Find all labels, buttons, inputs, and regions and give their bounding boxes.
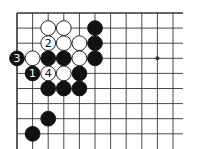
black-stone xyxy=(88,51,103,66)
white-stone: 2 xyxy=(41,36,56,51)
white-stone xyxy=(56,21,71,36)
white-stone xyxy=(56,36,71,51)
white-stone xyxy=(72,36,87,51)
black-stone xyxy=(41,81,56,96)
black-stone: 1 xyxy=(25,66,40,81)
white-stone xyxy=(72,51,87,66)
star-points xyxy=(155,56,159,60)
move-number-label: 2 xyxy=(45,37,52,50)
black-stone: 3 xyxy=(10,51,25,66)
black-stone xyxy=(41,111,56,126)
white-stone xyxy=(41,21,56,36)
go-board: 2314 xyxy=(0,0,201,149)
black-stone xyxy=(72,81,87,96)
black-stone xyxy=(88,21,103,36)
white-stone xyxy=(56,66,71,81)
move-number-label: 4 xyxy=(45,67,52,80)
black-stone xyxy=(56,51,71,66)
black-stone xyxy=(72,66,87,81)
black-stone xyxy=(25,126,40,141)
move-number-label: 3 xyxy=(14,52,21,65)
black-stone xyxy=(88,36,103,51)
black-stone xyxy=(56,81,71,96)
black-stone xyxy=(41,51,56,66)
star-point xyxy=(155,56,159,60)
stones: 2314 xyxy=(10,21,103,142)
white-stone xyxy=(25,51,40,66)
white-stone: 4 xyxy=(41,66,56,81)
move-number-label: 1 xyxy=(29,67,36,80)
